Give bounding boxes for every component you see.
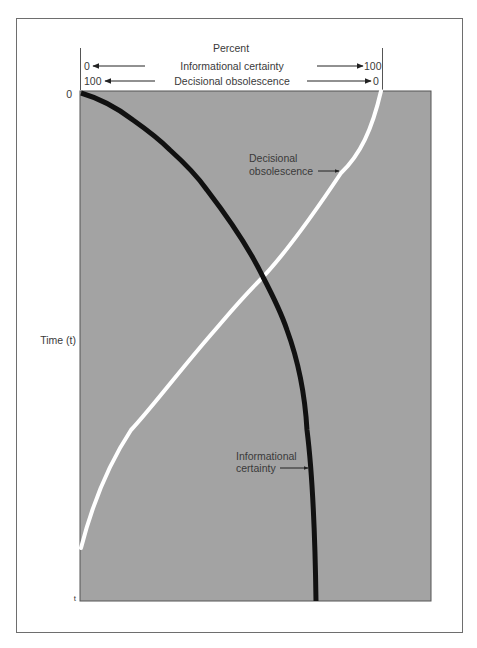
info-right-value: 100 (364, 60, 382, 72)
annotation-decisional-line2: obsolescence (249, 165, 313, 177)
y-axis-label: Time (t) (40, 334, 76, 346)
info-left-value: 0 (84, 60, 90, 72)
info-axis-label: Informational certainty (180, 60, 284, 72)
y-tick-t: t (74, 594, 77, 603)
annotation-informational-line1: Informational (236, 450, 297, 462)
annotation-informational-line2: certainty (236, 462, 276, 474)
y-tick-zero: 0 (66, 88, 72, 100)
chart: Percent 0 Informational certainty 100 10… (0, 0, 477, 648)
annotation-decisional-line1: Decisional (249, 152, 297, 164)
dec-right-value: 0 (373, 75, 379, 87)
dec-left-value: 100 (84, 75, 102, 87)
dec-axis-label: Decisional obsolescence (174, 75, 290, 87)
percent-label: Percent (213, 42, 249, 54)
